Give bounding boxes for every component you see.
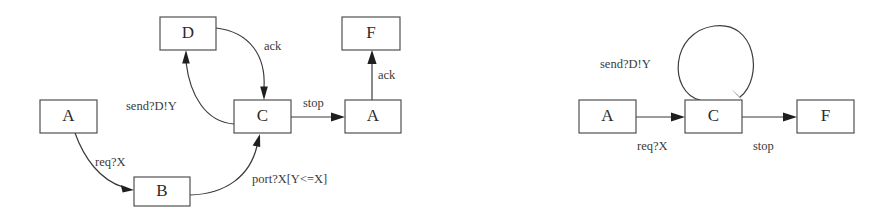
left-diagram: send?D!Y ack req?X port?X[Y<=X]	[40, 17, 401, 206]
edge-left-d-to-c: ack	[216, 28, 282, 100]
node-right-c[interactable]: C	[685, 100, 742, 133]
edge-left-c-to-a: stop	[291, 96, 345, 122]
node-left-b[interactable]: B	[134, 177, 190, 206]
node-right-f[interactable]: F	[797, 100, 854, 133]
node-left-f[interactable]: F	[342, 17, 400, 50]
arrowhead-to-d	[182, 50, 190, 63]
arrowhead-to-c-bottom	[253, 134, 261, 147]
edge-label-send-right: send?D!Y	[600, 57, 651, 71]
node-label-f-right: F	[821, 106, 830, 125]
node-label-c-right: C	[708, 106, 719, 125]
edge-path-port	[190, 146, 257, 195]
state-transition-diagram-figure: send?D!Y ack req?X port?X[Y<=X]	[0, 0, 888, 216]
arrowhead-to-a2	[331, 112, 345, 121]
node-left-c[interactable]: C	[234, 100, 291, 133]
edge-left-a-to-b: req?X	[75, 133, 134, 192]
arrowhead-self-loop	[731, 89, 742, 100]
node-label-a1: A	[62, 106, 75, 125]
edge-path-send	[186, 62, 234, 124]
edge-left-a-to-f: ack	[367, 50, 396, 100]
edge-right-c-self-loop: send?D!Y	[600, 26, 753, 100]
node-label-d: D	[182, 23, 194, 42]
node-label-a-right: A	[601, 106, 614, 125]
node-label-b: B	[156, 181, 167, 200]
node-label-c: C	[257, 106, 268, 125]
node-label-f: F	[366, 23, 375, 42]
edge-label-stop: stop	[303, 96, 324, 110]
edge-label-port: port?X[Y<=X]	[252, 172, 327, 186]
edge-left-b-to-c: port?X[Y<=X]	[190, 134, 327, 195]
node-left-a1[interactable]: A	[40, 100, 97, 133]
arrowhead-to-c-right	[671, 112, 685, 121]
edge-path-self-loop	[678, 26, 753, 100]
edge-right-c-to-f: stop	[742, 112, 797, 152]
edge-label-ack-right: ack	[378, 68, 396, 82]
edge-path-ack-top	[216, 28, 264, 88]
node-right-a[interactable]: A	[579, 100, 636, 133]
edge-label-send: send?D!Y	[126, 99, 177, 113]
arrowhead-to-f-right	[783, 112, 797, 121]
edge-label-stop-right: stop	[753, 139, 774, 153]
edge-right-a-to-c: req?X	[636, 112, 685, 152]
arrowhead-to-c-top	[260, 87, 268, 100]
diagram-canvas: send?D!Y ack req?X port?X[Y<=X]	[0, 0, 888, 216]
node-left-d[interactable]: D	[160, 17, 216, 50]
node-left-a2[interactable]: A	[345, 100, 401, 133]
node-label-a2: A	[367, 106, 380, 125]
right-diagram: send?D!Y req?X stop A C	[579, 26, 854, 153]
edge-left-c-to-d: send?D!Y	[126, 50, 234, 124]
arrowhead-to-b	[121, 185, 134, 192]
edge-label-ack-top: ack	[264, 39, 282, 53]
edge-label-req-right: req?X	[637, 139, 668, 153]
arrowhead-to-f	[367, 50, 376, 64]
edge-label-req: req?X	[95, 155, 126, 169]
